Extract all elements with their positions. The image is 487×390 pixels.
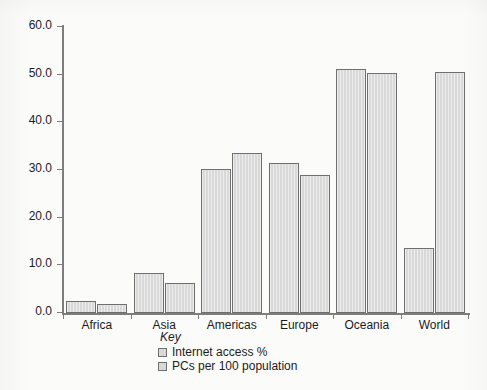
y-axis-tick: 10.0 xyxy=(57,264,63,265)
bar-group-africa xyxy=(66,27,127,313)
x-axis-tick xyxy=(468,313,469,319)
key-title: Key xyxy=(158,330,297,344)
bar-group-asia xyxy=(134,27,195,313)
bar-asia-series-2 xyxy=(165,283,195,313)
bar-africa-series-2 xyxy=(97,304,127,313)
y-axis-tick: 40.0 xyxy=(57,121,63,122)
y-axis-tick-label: 50.0 xyxy=(29,66,52,80)
bar-group-europe xyxy=(269,27,330,313)
bar-asia-series-1 xyxy=(134,273,164,313)
key-label-internet-access: Internet access % xyxy=(172,346,267,359)
y-axis-tick-label: 40.0 xyxy=(29,113,52,127)
key-entry-internet-access: Internet access % xyxy=(158,346,297,359)
x-axis-label-world: World xyxy=(401,318,469,332)
bar-africa-series-1 xyxy=(66,301,96,313)
plot-area: 0.010.020.030.040.050.060.0 xyxy=(63,27,468,313)
bar-americas-series-1 xyxy=(201,169,231,313)
bar-world-series-2 xyxy=(435,72,465,313)
key-label-pcs-per-100: PCs per 100 population xyxy=(172,360,297,373)
chart-key: Key Internet access % PCs per 100 popula… xyxy=(158,330,297,373)
y-axis-tick: 20.0 xyxy=(57,217,63,218)
x-axis-label-europe: Europe xyxy=(266,318,334,332)
bar-europe-series-2 xyxy=(300,175,330,313)
key-entry-pcs-per-100: PCs per 100 population xyxy=(158,360,297,373)
key-swatch-icon-pcs-per-100 xyxy=(158,362,167,371)
bar-oceania-series-2 xyxy=(367,73,397,313)
y-axis-tick-label: 0.0 xyxy=(35,304,52,318)
bar-chart-figure: 0.010.020.030.040.050.060.0 Key Internet… xyxy=(0,0,487,390)
bar-group-world xyxy=(404,27,465,313)
x-axis-label-asia: Asia xyxy=(131,318,199,332)
bar-group-americas xyxy=(201,27,262,313)
bar-oceania-series-1 xyxy=(336,69,366,313)
key-swatch-icon-internet-access xyxy=(158,348,167,357)
y-axis-tick-label: 60.0 xyxy=(29,18,52,32)
y-axis-tick-label: 20.0 xyxy=(29,209,52,223)
y-axis-tick-label: 10.0 xyxy=(29,256,52,270)
y-axis-tick: 30.0 xyxy=(57,169,63,170)
bar-europe-series-1 xyxy=(269,163,299,313)
x-axis-label-africa: Africa xyxy=(63,318,131,332)
bar-americas-series-2 xyxy=(232,153,262,313)
y-axis-tick: 50.0 xyxy=(57,74,63,75)
y-axis-tick-label: 30.0 xyxy=(29,161,52,175)
y-axis-tick: 60.0 xyxy=(57,26,63,27)
bar-world-series-1 xyxy=(404,248,434,313)
x-axis-label-americas: Americas xyxy=(198,318,266,332)
x-axis-label-oceania: Oceania xyxy=(333,318,401,332)
bar-group-oceania xyxy=(336,27,397,313)
